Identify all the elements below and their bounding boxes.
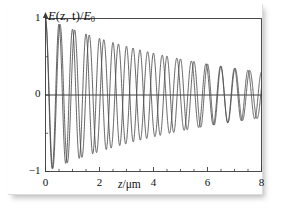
x-axis-tick-label: 0 [32,176,60,188]
plot-area: E(z, t)/E0 z/μm 02468−101 [0,0,289,213]
x-axis-tick-label: 2 [86,176,114,188]
y-axis-tick-label: −1 [16,164,41,176]
figure-canvas: E(z, t)/E0 z/μm 02468−101 [0,0,289,213]
y-axis-label-args: (z, t) [56,9,80,23]
x-axis-tick-label: 8 [248,176,276,188]
y-axis-label-field: E [48,9,56,23]
x-axis-label: z/μm [118,178,141,190]
x-axis-tick-label: 4 [140,176,168,188]
x-axis-tick-label: 6 [194,176,222,188]
y-axis-tick-label: 0 [16,87,41,99]
y-axis-label-ref-subscript: 0 [91,14,95,24]
x-axis-label-unit: /μm [122,178,140,190]
y-axis-label: E(z, t)/E0 [48,9,95,24]
y-axis-tick-label: 1 [16,11,41,23]
curves-group [46,19,262,169]
